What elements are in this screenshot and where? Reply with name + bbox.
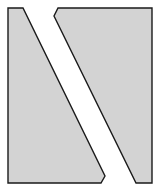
diagram-canvas — [0, 0, 163, 192]
